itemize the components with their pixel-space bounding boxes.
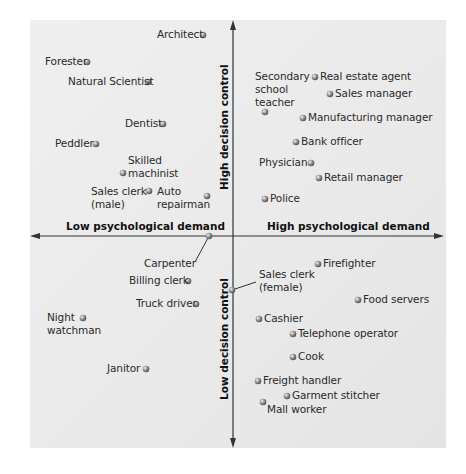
leader-line-sales-clerk-female xyxy=(232,282,256,290)
arrow-up-icon xyxy=(230,20,236,30)
point-label-natural-scientist: Natural Scientist xyxy=(68,75,153,88)
data-point-police xyxy=(262,196,269,203)
data-point-skilled-machinist xyxy=(120,170,127,177)
arrow-down-icon xyxy=(230,438,236,448)
data-point-telephone-operator xyxy=(290,331,297,338)
point-label-night-watchman: Night watchman xyxy=(47,311,101,337)
point-label-manufacturing-manager: Manufacturing manager xyxy=(308,111,432,124)
data-point-freight-handler xyxy=(255,378,262,385)
data-point-cook xyxy=(290,354,297,361)
data-point-firefighter xyxy=(315,261,322,268)
data-point-food-servers xyxy=(355,297,362,304)
point-label-physician: Physician xyxy=(259,156,307,169)
data-point-janitor xyxy=(143,366,150,373)
data-point-cashier xyxy=(256,316,263,323)
point-label-cook: Cook xyxy=(298,350,324,363)
point-label-cashier: Cashier xyxy=(264,312,303,325)
point-label-sales-manager: Sales manager xyxy=(335,87,412,100)
point-label-secondary-school-teacher: Secondary school teacher xyxy=(255,70,310,109)
data-point-secondary-school-teacher xyxy=(262,109,269,116)
point-label-peddler: Peddler xyxy=(55,137,94,150)
data-point-physician xyxy=(308,160,315,167)
point-label-dentist: Dentist xyxy=(125,117,162,130)
arrow-left-icon xyxy=(30,233,40,239)
point-label-garment-stitcher: Garment stitcher xyxy=(292,389,380,402)
data-point-carpenter xyxy=(206,233,213,240)
point-label-billing-clerk: Billing clerk xyxy=(129,274,189,287)
point-label-freight-handler: Freight handler xyxy=(263,374,341,387)
point-label-carpenter: Carpenter xyxy=(144,257,196,270)
leader-line-carpenter xyxy=(195,236,209,262)
data-point-sales-manager xyxy=(327,91,334,98)
data-point-bank-officer xyxy=(293,139,300,146)
point-label-truck-driver: Truck driver xyxy=(136,297,197,310)
point-label-firefighter: Firefighter xyxy=(323,257,375,270)
data-point-retail-manager xyxy=(316,175,323,182)
data-point-garment-stitcher xyxy=(284,393,291,400)
data-point-real-estate-agent xyxy=(312,74,319,81)
point-label-bank-officer: Bank officer xyxy=(301,135,363,148)
horizontal-axis xyxy=(30,233,444,239)
point-label-forester: Forester xyxy=(45,55,87,68)
point-label-sales-clerk-male: Sales clerk (male) xyxy=(91,185,147,211)
point-label-telephone-operator: Telephone operator xyxy=(298,327,398,340)
point-label-auto-repairman: Auto repairman xyxy=(157,185,210,211)
point-label-retail-manager: Retail manager xyxy=(324,171,403,184)
point-label-architect: Architect xyxy=(157,28,203,41)
point-label-mall-worker: Mall worker xyxy=(267,403,326,416)
arrow-right-icon xyxy=(434,233,444,239)
data-point-mall-worker xyxy=(260,399,267,406)
y-axis-label-low: Low decision control xyxy=(218,278,230,400)
point-label-skilled-machinist: Skilled machinist xyxy=(128,154,178,180)
y-axis-label-high: High decision control xyxy=(218,64,230,190)
point-label-real-estate-agent: Real estate agent xyxy=(320,70,411,83)
data-point-manufacturing-manager xyxy=(300,115,307,122)
point-label-janitor: Janitor xyxy=(107,362,140,375)
point-label-sales-clerk-female: Sales clerk (female) xyxy=(259,268,315,294)
x-axis-label-high: High psychological demand xyxy=(267,220,430,232)
vertical-axis xyxy=(230,20,236,448)
x-axis-label-low: Low psychological demand xyxy=(66,220,225,232)
point-label-food-servers: Food servers xyxy=(363,293,429,306)
point-label-police: Police xyxy=(270,192,300,205)
